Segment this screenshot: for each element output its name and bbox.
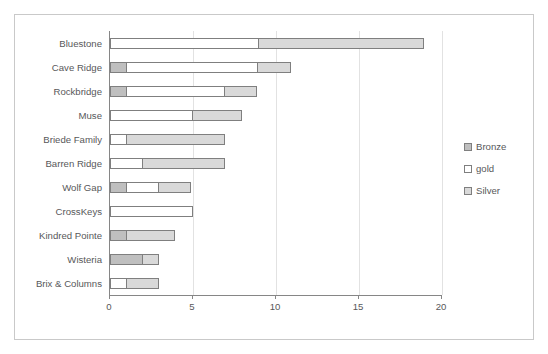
bar-segment-gold[interactable]	[126, 182, 159, 193]
bar-row	[110, 271, 441, 295]
bar-row	[110, 175, 441, 199]
legend-item[interactable]: Silver	[464, 185, 526, 196]
x-axis-tick	[358, 295, 359, 299]
x-axis-tick-label: 0	[106, 301, 111, 312]
bar-segment-gold[interactable]	[126, 62, 259, 73]
bar-rows	[110, 31, 441, 295]
y-axis-label: Rockbridge	[15, 79, 109, 103]
bar-segment-gold[interactable]	[110, 110, 193, 121]
bar-segment-silver[interactable]	[257, 62, 290, 73]
bar-segment-gold[interactable]	[110, 278, 127, 289]
bar-row	[110, 151, 441, 175]
stacked-bar[interactable]	[110, 134, 225, 145]
bar-row	[110, 223, 441, 247]
y-axis-label: Briede Family	[15, 127, 109, 151]
x-axis-line	[109, 295, 441, 296]
stacked-bar[interactable]	[110, 230, 175, 241]
x-axis-tick-label: 20	[436, 301, 447, 312]
stacked-bar[interactable]	[110, 254, 159, 265]
y-axis-label: CrossKeys	[15, 199, 109, 223]
bar-segment-silver[interactable]	[158, 182, 191, 193]
stacked-bar[interactable]	[110, 38, 424, 49]
x-axis-tick-label: 5	[189, 301, 194, 312]
bar-segment-gold[interactable]	[126, 86, 226, 97]
stacked-bar[interactable]	[110, 158, 225, 169]
bar-segment-silver[interactable]	[126, 134, 226, 145]
stacked-bar[interactable]	[110, 206, 193, 217]
y-axis-label: Barren Ridge	[15, 151, 109, 175]
bar-segment-silver[interactable]	[258, 38, 424, 49]
plot-wrapper: BluestoneCave RidgeRockbridgeMuseBriede …	[15, 15, 533, 339]
plot-area	[109, 31, 441, 295]
bar-segment-bronze[interactable]	[110, 86, 127, 97]
stacked-bar[interactable]	[110, 86, 257, 97]
bar-segment-silver[interactable]	[126, 278, 159, 289]
bar-segment-silver[interactable]	[142, 158, 225, 169]
y-axis-label: Brix & Columns	[15, 271, 109, 295]
bar-segment-silver[interactable]	[142, 254, 159, 265]
y-axis-label: Cave Ridge	[15, 55, 109, 79]
bar-segment-bronze[interactable]	[110, 254, 143, 265]
bar-segment-silver[interactable]	[224, 86, 257, 97]
bar-segment-bronze[interactable]	[110, 182, 127, 193]
legend-item[interactable]: Bronze	[464, 141, 526, 152]
y-axis-label: Muse	[15, 103, 109, 127]
bar-segment-bronze[interactable]	[110, 62, 127, 73]
bar-segment-silver[interactable]	[126, 230, 176, 241]
x-axis-tick-labels: 05101520	[109, 301, 441, 317]
x-axis-tick	[109, 295, 110, 299]
legend-label: gold	[476, 163, 494, 174]
chart-container: BluestoneCave RidgeRockbridgeMuseBriede …	[14, 14, 534, 340]
stacked-bar[interactable]	[110, 62, 291, 73]
y-axis-category-labels: BluestoneCave RidgeRockbridgeMuseBriede …	[15, 31, 109, 295]
legend-item[interactable]: gold	[464, 163, 526, 174]
x-axis-tick-label: 15	[353, 301, 364, 312]
y-axis-label: Wolf Gap	[15, 175, 109, 199]
y-axis-label: Wisteria	[15, 247, 109, 271]
gridline	[442, 31, 443, 295]
legend-label: Bronze	[476, 141, 506, 152]
legend-swatch-bronze	[464, 143, 472, 151]
stacked-bar[interactable]	[110, 278, 159, 289]
y-axis-label: Bluestone	[15, 31, 109, 55]
bar-segment-silver[interactable]	[192, 110, 242, 121]
legend-swatch-silver	[464, 187, 472, 195]
legend-swatch-gold	[464, 165, 472, 173]
bar-segment-gold[interactable]	[110, 38, 259, 49]
bar-row	[110, 103, 441, 127]
x-axis-tick	[441, 295, 442, 299]
bar-row	[110, 247, 441, 271]
bar-segment-gold[interactable]	[110, 206, 193, 217]
bar-segment-bronze[interactable]	[110, 230, 127, 241]
bar-row	[110, 31, 441, 55]
bar-row	[110, 199, 441, 223]
bar-segment-gold[interactable]	[110, 158, 143, 169]
y-axis-label: Kindred Pointe	[15, 223, 109, 247]
chart-legend: BronzegoldSilver	[464, 141, 526, 196]
bar-row	[110, 127, 441, 151]
x-axis-tick-label: 10	[270, 301, 281, 312]
stacked-bar[interactable]	[110, 110, 242, 121]
stacked-bar[interactable]	[110, 182, 191, 193]
bar-segment-gold[interactable]	[110, 134, 127, 145]
x-axis-tick	[192, 295, 193, 299]
bar-row	[110, 55, 441, 79]
bar-row	[110, 79, 441, 103]
x-axis-tick	[275, 295, 276, 299]
legend-label: Silver	[476, 185, 500, 196]
